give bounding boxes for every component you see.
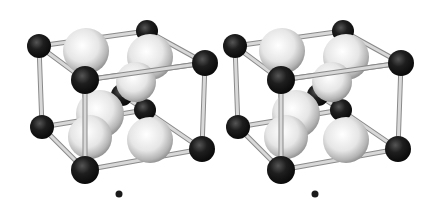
dark-atom bbox=[189, 136, 215, 162]
dark-atom bbox=[27, 34, 51, 58]
light-atom bbox=[264, 115, 308, 159]
dark-atom bbox=[267, 156, 295, 184]
stereo-crystal-diagram bbox=[0, 0, 430, 218]
marker-dot bbox=[312, 191, 319, 198]
dark-atom bbox=[30, 115, 54, 139]
unit-cell-left bbox=[27, 20, 218, 198]
dark-atom bbox=[71, 66, 99, 94]
light-atom bbox=[127, 117, 173, 163]
dark-atom bbox=[388, 50, 414, 76]
light-atom bbox=[116, 62, 156, 102]
dark-atom bbox=[385, 136, 411, 162]
marker-dot bbox=[116, 191, 123, 198]
unit-cell-right bbox=[223, 20, 414, 198]
dark-atom bbox=[71, 156, 99, 184]
dark-atom bbox=[267, 66, 295, 94]
dark-atom bbox=[192, 50, 218, 76]
light-atom bbox=[323, 117, 369, 163]
light-atom bbox=[68, 115, 112, 159]
dark-atom bbox=[226, 115, 250, 139]
dark-atom bbox=[223, 34, 247, 58]
light-atom bbox=[312, 62, 352, 102]
